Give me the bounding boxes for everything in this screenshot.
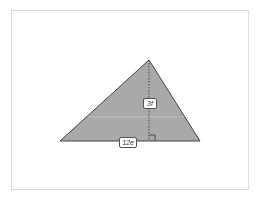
triangle-diagram bbox=[0, 0, 259, 197]
height-label: 3f bbox=[143, 98, 157, 109]
base-label: 12e bbox=[119, 137, 137, 148]
triangle bbox=[60, 60, 200, 141]
